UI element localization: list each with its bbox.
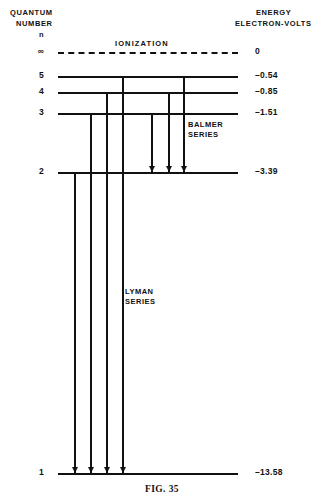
- transition-balmer-3-to-2: [151, 113, 153, 172]
- energy-heading-line1: ENERGY: [256, 8, 291, 17]
- energy-level-line-ninf: [58, 52, 238, 54]
- energy-level-line-n1: [58, 473, 238, 475]
- quantum-number-label-n1: 1: [14, 467, 44, 477]
- balmer-series-line1: BALMER: [188, 120, 223, 129]
- transition-balmer-4-to-2: [168, 92, 170, 172]
- energy-value-label-n4: –0.85: [255, 86, 278, 96]
- transition-lyman-5-to-1: [122, 76, 124, 473]
- quantum-number-label-n4: 4: [14, 86, 44, 96]
- quantum-number-label-n3: 3: [14, 107, 44, 117]
- transition-lyman-2-to-1: [74, 172, 76, 473]
- energy-level-line-n2: [58, 172, 238, 174]
- transition-lyman-3-to-1: [90, 113, 92, 473]
- energy-level-line-n3: [58, 113, 238, 115]
- quantum-number-heading-line2: NUMBER: [16, 19, 53, 28]
- energy-value-label-n2: –3.39: [255, 166, 278, 176]
- energy-level-line-n4: [58, 92, 238, 94]
- energy-value-label-n5: –0.54: [255, 70, 278, 80]
- lyman-series-label: LYMANSERIES: [125, 287, 156, 306]
- energy-value-label-n1: –13.58: [255, 467, 283, 477]
- energy-heading-line2: ELECTRON-VOLTS: [235, 19, 312, 28]
- transition-lyman-4-to-1: [106, 92, 108, 473]
- lyman-series-line1: LYMAN: [125, 287, 153, 296]
- quantum-number-label-ninf: ∞: [14, 46, 44, 56]
- lyman-series-line2: SERIES: [125, 297, 156, 306]
- energy-value-label-n3: –1.51: [255, 107, 278, 117]
- quantum-number-symbol: n: [39, 30, 44, 39]
- quantum-number-heading-line1: QUANTUM: [10, 8, 53, 17]
- energy-value-label-ninf: 0: [255, 46, 260, 56]
- balmer-series-label: BALMERSERIES: [188, 120, 223, 139]
- quantum-number-label-n2: 2: [14, 166, 44, 176]
- ionization-label: IONIZATION: [112, 39, 172, 48]
- figure-caption: FIG. 35: [0, 484, 324, 494]
- energy-level-line-n5: [58, 76, 238, 78]
- transition-balmer-5-to-2: [183, 76, 185, 172]
- balmer-series-line2: SERIES: [188, 130, 219, 139]
- energy-level-diagram: QUANTUM NUMBER n ENERGY ELECTRON-VOLTS ∞…: [0, 0, 324, 501]
- quantum-number-label-n5: 5: [14, 70, 44, 80]
